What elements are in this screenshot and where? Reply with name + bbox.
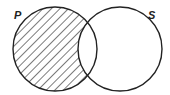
venn-diagram: P S (0, 0, 170, 95)
label-p: P (14, 9, 22, 21)
label-s: S (148, 9, 156, 21)
